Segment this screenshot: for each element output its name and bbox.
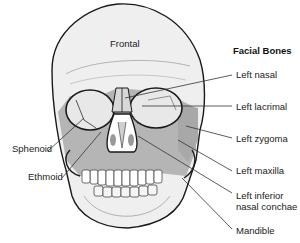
label-left-inferior-line1: Left inferior xyxy=(236,190,284,201)
label-mandible: Mandible xyxy=(236,225,275,236)
label-left-maxilla: Left maxilla xyxy=(236,165,284,176)
diagram-title: Facial Bones xyxy=(233,45,292,56)
left-orbit xyxy=(130,88,182,128)
upper-teeth xyxy=(82,170,162,186)
label-sphenoid: Sphenoid xyxy=(12,143,52,154)
label-left-inferior-line2: nasal conchae xyxy=(236,201,297,212)
label-frontal: Frontal xyxy=(110,38,140,49)
label-left-nasal: Left nasal xyxy=(236,69,277,80)
label-left-zygoma: Left zygoma xyxy=(236,133,288,144)
label-ethmoid: Ethmoid xyxy=(28,171,63,182)
label-left-lacrimal: Left lacrimal xyxy=(236,101,287,112)
